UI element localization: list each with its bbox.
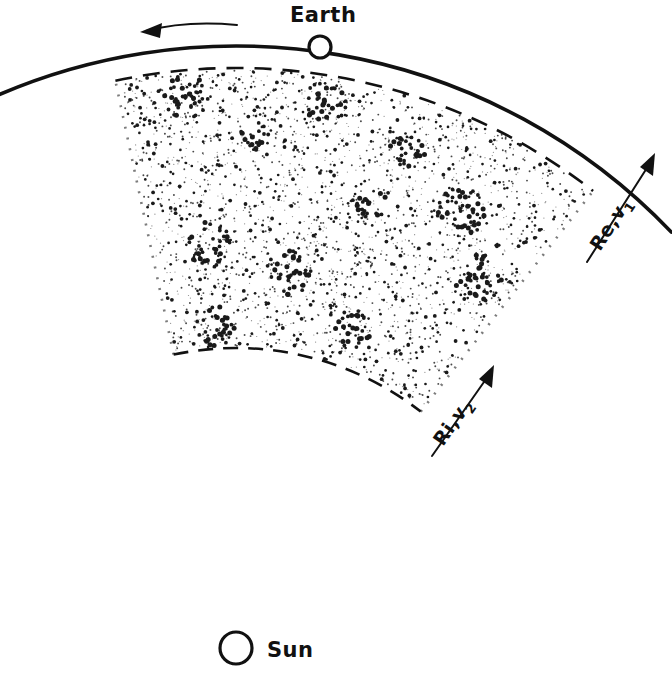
stipple-dot — [541, 193, 542, 194]
stipple-dot — [338, 79, 339, 80]
stipple-dot — [422, 127, 423, 128]
stipple-dot — [223, 256, 226, 259]
stipple-dot — [261, 201, 264, 204]
stipple-dot — [303, 98, 304, 99]
stipple-dot — [166, 125, 167, 126]
stipple-dot — [224, 207, 225, 208]
stipple-dot — [267, 75, 268, 76]
stipple-dot — [254, 86, 256, 88]
stipple-dot — [306, 298, 308, 300]
stipple-dot — [261, 80, 262, 81]
stipple-dot — [170, 78, 175, 83]
stipple-dot — [379, 128, 381, 130]
stipple-dot — [181, 138, 184, 141]
stipple-dot — [277, 174, 280, 177]
stipple-dot — [241, 104, 242, 105]
stipple-dot — [299, 221, 302, 224]
stipple-dot — [530, 216, 531, 217]
stipple-dot — [324, 226, 325, 227]
stipple-dot — [289, 163, 290, 164]
stipple-dot — [476, 193, 480, 197]
stipple-dot — [364, 222, 367, 225]
stipple-dot — [157, 89, 161, 93]
stipple-dot — [267, 339, 268, 340]
stipple-dot — [414, 370, 417, 373]
stipple-dot — [172, 336, 174, 338]
stipple-dot — [414, 266, 416, 268]
stipple-dot — [139, 80, 141, 82]
stipple-dot — [368, 201, 372, 205]
stipple-dot — [293, 333, 294, 334]
stipple-dot — [365, 323, 366, 324]
stipple-dot — [273, 210, 274, 211]
stipple-dot — [435, 119, 436, 120]
stipple-dot — [263, 246, 265, 248]
stipple-dot — [413, 157, 415, 159]
stipple-dot — [357, 253, 359, 255]
stipple-dot — [202, 292, 204, 294]
stipple-dot — [379, 309, 381, 311]
stipple-dot — [224, 175, 227, 178]
stipple-dot — [219, 106, 222, 109]
stipple-dot — [218, 229, 222, 233]
stipple-dot — [218, 239, 222, 243]
stipple-dot — [388, 308, 389, 309]
stipple-dot — [195, 288, 197, 290]
stipple-dot — [330, 79, 332, 81]
stipple-dot — [318, 272, 320, 274]
stipple-dot — [249, 283, 250, 284]
stipple-dot — [333, 303, 336, 306]
stipple-dot — [274, 290, 276, 292]
stipple-dot — [197, 234, 198, 235]
stipple-dot — [300, 134, 301, 135]
stipple-dot — [170, 124, 172, 126]
stipple-dot — [235, 163, 236, 164]
stipple-dot — [188, 237, 192, 241]
stipple-dot — [135, 93, 136, 94]
stipple-dot — [369, 248, 371, 250]
stipple-dot — [270, 206, 271, 207]
stipple-dot — [315, 284, 316, 285]
stipple-dot — [158, 122, 160, 124]
stipple-dot — [483, 254, 487, 258]
stipple-dot — [474, 318, 475, 319]
stipple-dot — [285, 97, 287, 99]
stipple-dot — [497, 300, 498, 301]
stipple-dot — [298, 90, 301, 93]
stipple-dot — [222, 235, 226, 239]
stipple-dot — [231, 262, 233, 264]
stipple-dot — [400, 147, 404, 151]
stipple-dot — [411, 214, 414, 217]
stipple-dot — [521, 233, 523, 235]
stipple-dot — [498, 190, 499, 191]
stipple-dot — [514, 212, 516, 214]
stipple-dot — [331, 209, 333, 211]
stipple-dot — [428, 268, 431, 271]
stipple-dot — [450, 364, 452, 366]
stipple-dot — [335, 305, 338, 308]
stipple-dot — [344, 99, 348, 103]
stipple-dot — [290, 340, 291, 341]
stipple-dot — [358, 113, 361, 116]
stipple-dot — [335, 282, 336, 283]
stipple-dot — [429, 178, 430, 179]
stipple-dot — [345, 114, 348, 117]
stipple-dot — [283, 81, 286, 84]
stipple-dot — [390, 99, 392, 101]
stipple-dot — [440, 276, 442, 278]
stipple-dot — [408, 190, 409, 191]
stipple-dot — [303, 118, 306, 121]
stipple-dot — [417, 139, 421, 143]
stipple-dot — [492, 155, 493, 156]
stipple-dot — [178, 336, 179, 337]
stipple-dot — [476, 242, 477, 243]
stipple-dot — [175, 349, 176, 350]
stipple-dot — [180, 217, 184, 221]
stipple-dot — [461, 149, 462, 150]
stipple-dot — [391, 273, 393, 275]
stipple-dot — [134, 106, 135, 107]
stipple-dot — [175, 256, 177, 258]
stipple-dot — [413, 277, 416, 280]
stipple-dot — [421, 188, 422, 189]
stipple-dot — [268, 126, 269, 127]
